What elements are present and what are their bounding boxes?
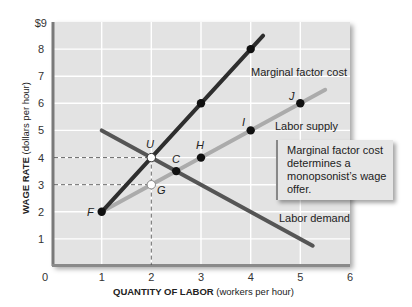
point-I <box>247 126 255 134</box>
label-I: I <box>242 116 245 128</box>
svg-text:3: 3 <box>198 271 204 283</box>
label-H: H <box>196 139 204 151</box>
point-C <box>172 167 180 175</box>
x-tick-labels: 0 1 2 3 4 5 6 <box>42 271 353 283</box>
point-U <box>147 153 155 161</box>
svg-text:0: 0 <box>42 271 48 283</box>
callout-line: determines a <box>287 157 389 170</box>
svg-text:4: 4 <box>248 271 254 283</box>
svg-text:1: 1 <box>99 271 105 283</box>
label-U: U <box>146 138 154 150</box>
y-axis-title: WAGE RATE (dollars per hour) <box>20 82 31 214</box>
callout-line: monopsonist’s wage <box>287 170 389 183</box>
y-tick-labels: 1 2 3 4 5 6 7 8 $9 <box>35 17 47 245</box>
callout-line: offer. <box>287 183 389 196</box>
svg-text:6: 6 <box>347 271 353 283</box>
x-axis-title: QUANTITY OF LABOR (workers per hour) <box>113 286 294 297</box>
point-mfc-3 <box>197 99 205 107</box>
point-G <box>147 181 155 189</box>
svg-text:4: 4 <box>38 152 44 164</box>
svg-text:1: 1 <box>38 233 44 245</box>
demand-label: Labor demand <box>279 212 350 224</box>
svg-text:8: 8 <box>38 43 44 55</box>
svg-text:3: 3 <box>38 179 44 191</box>
svg-text:5: 5 <box>297 271 303 283</box>
svg-text:7: 7 <box>38 70 44 82</box>
point-F <box>98 208 106 216</box>
label-G: G <box>157 184 166 196</box>
callout-box: Marginal factor cost determines a monops… <box>276 140 393 200</box>
label-J: J <box>288 90 295 102</box>
point-J <box>296 99 304 107</box>
svg-text:6: 6 <box>38 97 44 109</box>
callout-line: Marginal factor cost <box>287 144 389 157</box>
point-H <box>197 153 205 161</box>
svg-text:2: 2 <box>148 271 154 283</box>
supply-label: Labor supply <box>275 120 338 132</box>
point-mfc-4 <box>247 45 255 53</box>
svg-text:2: 2 <box>38 206 44 218</box>
mfc-label: Marginal factor cost <box>251 66 347 78</box>
svg-text:$9: $9 <box>35 17 47 29</box>
label-C: C <box>172 153 180 165</box>
svg-text:5: 5 <box>38 124 44 136</box>
